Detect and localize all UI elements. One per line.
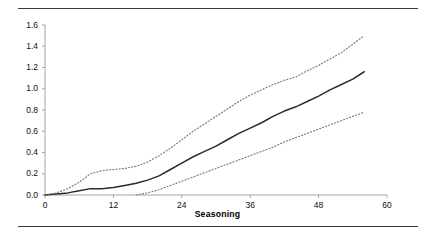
- y-tick-label: 0.8: [12, 106, 38, 115]
- bottom-horizontal-rule: [18, 226, 418, 227]
- y-tick-label: 1.4: [12, 42, 38, 51]
- chart-series-group: [45, 36, 364, 195]
- chart-axes: [42, 25, 387, 198]
- series-line-lower-confidence-band: [136, 112, 364, 195]
- y-tick-label: 0.0: [12, 191, 38, 200]
- y-tick-label: 0.4: [12, 148, 38, 157]
- y-tick-label: 1.0: [12, 84, 38, 93]
- y-tick-label: 1.6: [12, 21, 38, 30]
- series-line-estimate: [45, 72, 364, 195]
- y-tick-label: 1.2: [12, 63, 38, 72]
- figure-container: 0.00.20.40.60.81.01.21.41.6 01224364860 …: [0, 0, 435, 238]
- y-tick-label: 0.2: [12, 169, 38, 178]
- x-axis-title: Seasoning: [0, 209, 435, 219]
- chart-plot-area: [0, 0, 435, 238]
- y-tick-label: 0.6: [12, 127, 38, 136]
- series-line-upper-confidence-band: [45, 36, 364, 195]
